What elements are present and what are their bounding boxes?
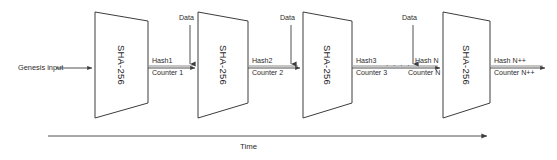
data-input-label-2: Data xyxy=(280,15,295,22)
hash-label-5: Hash N++ xyxy=(494,58,526,65)
hash-label-3: Hash3 xyxy=(356,58,377,65)
hash-link-arrow-2 xyxy=(248,66,300,68)
hash-label-4: Hash N xyxy=(415,58,439,65)
sha256-block-label-4: SHA-256 xyxy=(461,45,470,85)
ellipsis-label: · · · · xyxy=(386,62,411,69)
counter-label-5: Counter N++ xyxy=(494,70,535,77)
hash-label-2: Hash2 xyxy=(252,58,273,65)
genesis-input-label: Genesis input xyxy=(18,64,63,71)
hash-label-1: Hash1 xyxy=(152,58,173,65)
hash-link-arrow-1 xyxy=(148,66,195,68)
diagram-canvas: Genesis input SHA-256 SHA-256 SHA-256 SH… xyxy=(0,0,557,160)
sha256-block-label-2: SHA-256 xyxy=(218,45,227,85)
diagram-vector-layer xyxy=(0,0,557,160)
counter-label-2: Counter 2 xyxy=(252,70,283,77)
data-input-label-1: Data xyxy=(179,15,194,22)
sha256-block-label-3: SHA-256 xyxy=(322,45,331,85)
data-input-label-3: Data xyxy=(402,15,417,22)
counter-label-1: Counter 1 xyxy=(152,70,183,77)
hash-link-arrow-4 xyxy=(490,66,545,68)
sha256-block-label-1: SHA-256 xyxy=(116,45,125,85)
time-axis-label: Time xyxy=(240,143,257,151)
counter-label-3: Counter 3 xyxy=(356,70,387,77)
counter-label-4: Counter N xyxy=(408,70,440,77)
